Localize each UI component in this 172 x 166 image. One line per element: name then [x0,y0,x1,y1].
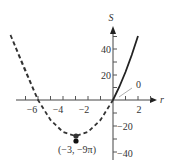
r-ticks [26,96,151,100]
vertex-marker [73,133,78,138]
r-axis-label: r [160,94,164,105]
s-axis-label: S [109,12,114,23]
r-tick-label: 2 [137,104,142,115]
vertex-point [73,138,78,143]
r-tick-label: −4 [53,104,64,115]
origin-callout-line [119,88,132,97]
vertex-label: (−3, −9π) [58,144,96,156]
dashed-curve [11,35,114,136]
r-axis-arrow-icon [150,97,157,103]
s-tick-label: −20 [117,121,133,132]
s-axis-arrow-icon [110,26,116,34]
s-tick-label: 40 [101,44,111,55]
chart: −6 −4 −2 2 40 20 −20 −40 S r (−3, −9π) 0 [0,0,172,166]
origin-callout-label: 0 [136,79,141,90]
s-tick-label: −40 [117,148,133,159]
s-tick-label: 20 [101,70,111,81]
r-tick-label: −6 [27,104,38,115]
r-tick-label: −2 [79,104,90,115]
solid-curve [113,36,138,100]
